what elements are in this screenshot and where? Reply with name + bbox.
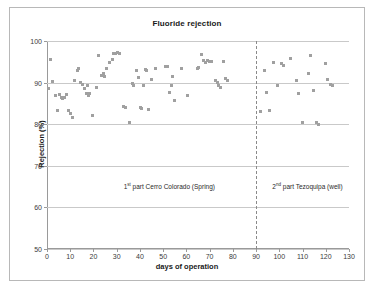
data-point — [309, 54, 312, 57]
data-point — [77, 67, 80, 70]
x-tick-label-120: 120 — [320, 253, 332, 260]
gridline-y-90 — [47, 83, 349, 84]
data-point — [326, 78, 329, 81]
y-tick-mark-80 — [44, 124, 47, 125]
y-tick-label-80: 80 — [34, 121, 42, 128]
y-tick-label-90: 90 — [34, 79, 42, 86]
data-point — [219, 86, 222, 89]
data-point — [268, 109, 271, 112]
data-point — [154, 67, 157, 70]
data-point — [54, 94, 57, 97]
data-point — [137, 76, 140, 79]
data-point — [317, 123, 320, 126]
data-point — [73, 79, 76, 82]
data-point — [197, 66, 200, 69]
x-tick-mark-70 — [210, 249, 211, 252]
x-tick-label-0: 0 — [45, 253, 49, 260]
data-point — [71, 116, 74, 119]
x-tick-label-10: 10 — [66, 253, 74, 260]
data-point — [105, 67, 108, 70]
gridline-y-80 — [47, 124, 349, 125]
data-point — [210, 60, 213, 63]
x-tick-mark-120 — [326, 249, 327, 252]
data-point — [140, 107, 143, 110]
x-tick-mark-30 — [117, 249, 118, 252]
data-point — [86, 84, 89, 87]
y-tick-mark-70 — [44, 166, 47, 167]
x-tick-mark-80 — [233, 249, 234, 252]
data-point — [142, 84, 145, 87]
chart-title: Fluoride rejection — [10, 19, 364, 28]
x-tick-label-130: 130 — [343, 253, 355, 260]
data-point — [307, 72, 310, 75]
data-point — [259, 110, 262, 113]
y-tick-label-50: 50 — [34, 246, 42, 253]
data-point — [147, 108, 150, 111]
data-point — [49, 58, 52, 61]
divider-line-day-90 — [256, 41, 257, 249]
data-point — [265, 91, 268, 94]
data-point — [301, 121, 304, 124]
x-tick-mark-100 — [279, 249, 280, 252]
x-tick-label-40: 40 — [136, 253, 144, 260]
data-point — [168, 91, 171, 94]
y-tick-label-100: 100 — [30, 38, 42, 45]
data-point — [150, 78, 153, 81]
y-tick-mark-60 — [44, 207, 47, 208]
x-tick-label-80: 80 — [229, 253, 237, 260]
data-point — [95, 86, 98, 89]
y-tick-mark-100 — [44, 41, 47, 42]
data-point — [111, 58, 114, 61]
data-point — [186, 94, 189, 97]
data-point — [170, 84, 173, 87]
y-tick-label-60: 60 — [34, 204, 42, 211]
x-tick-label-90: 90 — [252, 253, 260, 260]
x-tick-mark-90 — [256, 249, 257, 252]
gridline-y-60 — [47, 207, 349, 208]
data-point — [132, 84, 135, 87]
data-point — [180, 67, 183, 70]
data-point — [226, 79, 229, 82]
data-point — [124, 106, 127, 109]
x-tick-mark-110 — [303, 249, 304, 252]
data-point — [97, 54, 100, 57]
data-point — [312, 89, 315, 92]
data-point — [173, 99, 176, 102]
annotation-1: 1st part Cerro Colorado (Spring) — [124, 182, 215, 190]
x-tick-label-30: 30 — [113, 253, 121, 260]
x-axis-title: days of operation — [10, 262, 364, 271]
x-tick-label-60: 60 — [182, 253, 190, 260]
data-point — [56, 109, 59, 112]
y-tick-mark-90 — [44, 83, 47, 84]
x-tick-mark-50 — [163, 249, 164, 252]
x-tick-mark-130 — [349, 249, 350, 252]
data-point — [200, 53, 203, 56]
gridline-y-100 — [47, 41, 349, 42]
data-point — [47, 87, 50, 90]
x-tick-label-110: 110 — [297, 253, 308, 260]
data-point — [272, 61, 275, 64]
data-point — [222, 60, 225, 63]
data-point — [108, 61, 111, 64]
x-tick-mark-20 — [93, 249, 94, 252]
chart-figure: Fluoride rejection Rejection (%) days of… — [9, 7, 365, 281]
data-point — [297, 92, 300, 95]
data-point — [91, 114, 94, 117]
x-tick-label-50: 50 — [159, 253, 167, 260]
x-tick-label-20: 20 — [90, 253, 98, 260]
data-point — [276, 84, 279, 87]
data-point — [289, 57, 292, 60]
data-point — [166, 65, 169, 68]
data-point — [145, 69, 148, 72]
x-tick-mark-10 — [70, 249, 71, 252]
data-point — [69, 112, 72, 115]
data-point — [282, 64, 285, 67]
data-point — [88, 92, 91, 95]
data-point — [65, 93, 68, 96]
x-tick-mark-60 — [186, 249, 187, 252]
gridline-y-70 — [47, 166, 349, 167]
annotation-2: 2nd part Tezoquipa (well) — [272, 182, 342, 190]
x-tick-label-70: 70 — [206, 253, 214, 260]
data-point — [263, 69, 266, 72]
data-point — [331, 84, 334, 87]
